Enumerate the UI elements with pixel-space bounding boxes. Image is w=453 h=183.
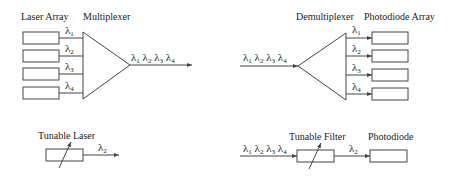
mux-output-lambdas: λ1 λ2 λ3 λ4 [131, 51, 175, 65]
svg-text:λ1: λ1 [352, 23, 361, 37]
svg-text:λ3: λ3 [352, 61, 361, 75]
svg-text:λ2: λ2 [352, 42, 361, 56]
photodiode-array-label: Photodiode Array [364, 11, 435, 22]
tunable-filter-label: Tunable Filter [289, 131, 346, 142]
svg-text:λ1: λ1 [65, 24, 74, 38]
laser-array-label: Laser Array [21, 11, 68, 22]
wdm-diagram: Laser Array Multiplexer λ1 λ2 λ3 λ4 λ1 λ… [0, 0, 453, 183]
laser-2 [23, 50, 59, 62]
demultiplexer-triangle [298, 33, 346, 100]
tunable-filter-tuning-arrow [309, 143, 321, 169]
mux-input-lambdas: λ1 λ2 λ3 λ4 [65, 24, 74, 93]
demultiplexer-label: Demultiplexer [296, 11, 354, 22]
filter-input-lambdas: λ1 λ2 λ3 λ4 [243, 142, 287, 156]
photodiode-box [370, 150, 407, 162]
photodiode-2 [372, 50, 408, 62]
laser-array [23, 32, 59, 99]
photodiode-1 [372, 32, 408, 44]
laser-1 [23, 32, 59, 44]
svg-text:λ4: λ4 [352, 80, 361, 94]
tunable-laser-label: Tunable Laser [38, 130, 96, 141]
svg-text:λ3: λ3 [65, 60, 74, 74]
multiplexer-triangle [83, 32, 130, 99]
tunable-laser-tuning-arrow [59, 142, 71, 168]
photodiode-array [372, 32, 408, 100]
demux-output-lambdas: λ1 λ2 λ3 λ4 [352, 23, 361, 94]
photodiode-3 [372, 69, 408, 81]
photodiode-4 [372, 88, 408, 100]
diagram-svg: Laser Array Multiplexer λ1 λ2 λ3 λ4 λ1 λ… [0, 0, 453, 183]
filter-output-lambda: λ2 [349, 142, 358, 156]
photodiode-label: Photodiode [368, 131, 414, 142]
laser-3 [23, 68, 59, 80]
laser-4 [23, 87, 59, 99]
svg-text:λ4: λ4 [65, 79, 74, 93]
demux-input-lambdas: λ1 λ2 λ3 λ4 [243, 51, 287, 65]
multiplexer-label: Multiplexer [83, 11, 131, 22]
tunable-laser-output-lambda: λ2 [98, 141, 107, 155]
svg-text:λ2: λ2 [65, 42, 74, 56]
